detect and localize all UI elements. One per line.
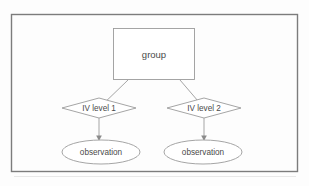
node-group-label: group bbox=[142, 49, 166, 60]
nested-design-diagram: group IV level 1 IV level 2 observation … bbox=[0, 0, 309, 186]
diagram-canvas: group IV level 1 IV level 2 observation … bbox=[0, 0, 309, 186]
node-iv-level-2-label: IV level 2 bbox=[187, 104, 221, 113]
node-iv-level-1-label: IV level 1 bbox=[82, 104, 116, 113]
node-observation-1-label: observation bbox=[80, 148, 123, 157]
node-observation-2-label: observation bbox=[182, 148, 225, 157]
